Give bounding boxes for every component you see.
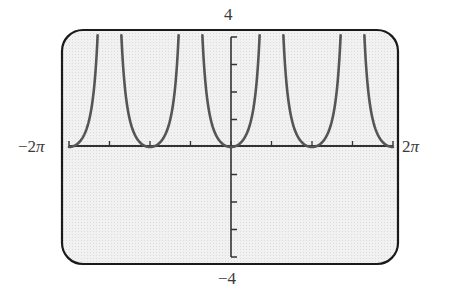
x-max-label: 2π — [402, 138, 419, 155]
graphing-calculator-chart — [0, 0, 452, 298]
y-max-label: 4 — [224, 6, 233, 23]
y-min-label: −4 — [218, 270, 236, 287]
x-min-label: −2π — [18, 138, 45, 155]
